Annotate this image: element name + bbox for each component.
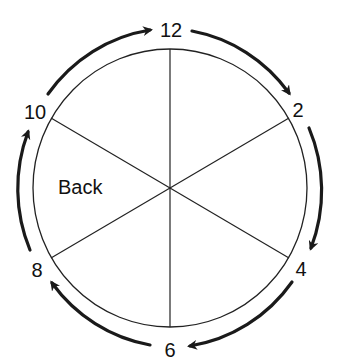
label-12: 12 [160, 19, 182, 41]
arrow-6-to-8 [52, 283, 150, 345]
arrow-12-to-2 [192, 31, 289, 93]
arrow-10-to-12 [48, 30, 150, 94]
label-10: 10 [24, 101, 46, 123]
arrow-2-to-4 [309, 128, 322, 248]
sector-label-back: Back [58, 176, 103, 198]
clock-diagram: 12 2 4 6 8 10 Back [0, 0, 338, 363]
arrow-8-to-10 [18, 132, 30, 250]
label-2: 2 [292, 99, 303, 121]
label-8: 8 [31, 259, 42, 281]
label-4: 4 [295, 258, 306, 280]
arrow-4-to-6 [190, 282, 292, 346]
label-6: 6 [164, 339, 175, 361]
